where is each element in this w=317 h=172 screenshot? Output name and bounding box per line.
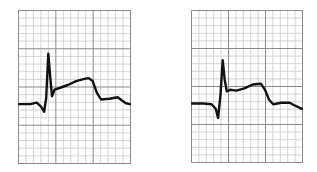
ecg-panel-a <box>18 10 131 164</box>
ecg-trace <box>18 54 130 112</box>
ecg-chart-b <box>191 10 303 163</box>
ecg-panel-b <box>191 10 303 163</box>
ecg-chart-a <box>18 10 131 164</box>
